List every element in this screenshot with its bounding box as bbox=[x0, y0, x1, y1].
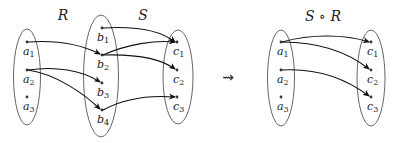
svg-text:c2: c2 bbox=[367, 73, 378, 87]
arrow-r-a2-b3 bbox=[28, 69, 100, 83]
element-a3: a3 bbox=[23, 96, 35, 114]
relation-s-label: S bbox=[138, 7, 148, 23]
composite-element-c2: c2 bbox=[367, 69, 378, 87]
svg-text:c2: c2 bbox=[173, 73, 184, 87]
element-a1: a1 bbox=[23, 41, 35, 59]
svg-text:b4: b4 bbox=[97, 113, 109, 127]
composition-label: S ∘ R bbox=[305, 8, 341, 24]
element-b2: b2 bbox=[97, 54, 109, 72]
element-c3: c3 bbox=[173, 96, 184, 114]
svg-text:b1: b1 bbox=[97, 31, 109, 45]
arrow-s-b2-c1 bbox=[103, 42, 175, 55]
svg-text:c3: c3 bbox=[173, 100, 184, 114]
arrow-sr-a2-c3 bbox=[282, 70, 369, 96]
arrow-sr-a1-c2 bbox=[282, 42, 369, 69]
svg-text:a1: a1 bbox=[277, 45, 289, 59]
svg-text:a3: a3 bbox=[23, 100, 35, 114]
composite-element-a1: a1 bbox=[277, 41, 289, 59]
leadsto-symbol: ⇝ bbox=[222, 69, 234, 85]
element-c1: c1 bbox=[173, 41, 184, 59]
element-c2: c2 bbox=[173, 69, 184, 87]
svg-text:c3: c3 bbox=[367, 100, 378, 114]
relation-composition-diagram: R S a1 a2 a3 b1 b2 b3 b4 c1 c2 bbox=[0, 0, 394, 143]
svg-text:c1: c1 bbox=[367, 45, 378, 59]
composite-element-c1: c1 bbox=[367, 41, 378, 59]
arrow-sr-a1-c1 bbox=[282, 36, 369, 42]
svg-text:c1: c1 bbox=[173, 45, 184, 59]
element-b4: b4 bbox=[97, 109, 109, 127]
svg-text:a3: a3 bbox=[277, 100, 289, 114]
element-b1: b1 bbox=[97, 27, 109, 45]
relation-r-label: R bbox=[57, 7, 69, 23]
svg-text:a2: a2 bbox=[23, 73, 35, 87]
svg-text:a2: a2 bbox=[277, 73, 289, 87]
composite-element-a2: a2 bbox=[277, 69, 289, 87]
element-b3: b3 bbox=[97, 82, 109, 100]
composite-element-c3: c3 bbox=[367, 96, 378, 114]
composite-element-a3: a3 bbox=[277, 96, 289, 114]
svg-text:a1: a1 bbox=[23, 45, 35, 59]
svg-text:b3: b3 bbox=[97, 86, 109, 100]
svg-text:b2: b2 bbox=[97, 58, 109, 72]
